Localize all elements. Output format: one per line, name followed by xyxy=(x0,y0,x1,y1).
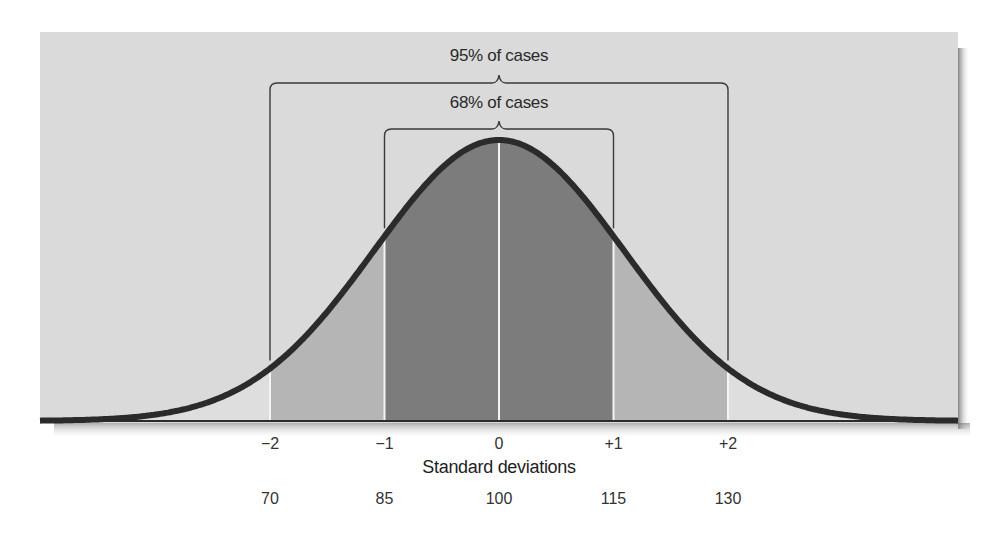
sd-tick-0: 0 xyxy=(495,435,504,453)
bracket-label-68-percent: 68% of cases xyxy=(450,93,548,113)
score-tick-100: 100 xyxy=(486,490,513,508)
score-tick-115: 115 xyxy=(601,490,627,508)
score-tick-70: 70 xyxy=(261,490,279,508)
sd-tick-minus-1: −1 xyxy=(375,435,393,453)
bracket-label-95-percent: 95% of cases xyxy=(450,46,548,66)
sd-tick-plus-2: +2 xyxy=(719,435,737,453)
score-tick-130: 130 xyxy=(715,490,742,508)
sd-tick-minus-2: −2 xyxy=(261,435,279,453)
score-tick-85: 85 xyxy=(376,490,394,508)
x-axis-title: Standard deviations xyxy=(422,457,575,478)
normal-distribution-figure: 95% of cases 68% of cases −2 −1 0 +1 +2 … xyxy=(0,0,999,539)
sd-tick-plus-1: +1 xyxy=(604,435,622,453)
